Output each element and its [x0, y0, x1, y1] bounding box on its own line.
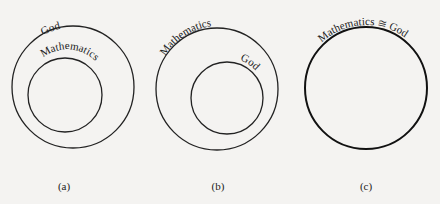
- label-mathematics: Mathematics: [38, 39, 102, 62]
- caption-a: (a): [58, 180, 71, 193]
- venn-diagram: God Mathematics (a) Mathematics God (b) …: [0, 0, 440, 204]
- panel-c: Mathematics ≅ God (c): [305, 15, 427, 193]
- circle-god-inner: [191, 62, 263, 134]
- caption-c: (c): [360, 180, 373, 193]
- panel-b: Mathematics God (b): [156, 16, 278, 193]
- circle-mathematics-inner: [28, 58, 102, 132]
- label-god: God: [239, 51, 263, 72]
- circle-mathematics-equals-god: [305, 27, 427, 149]
- label-mathematics: Mathematics: [157, 16, 212, 57]
- panel-a: God Mathematics (a): [12, 19, 134, 193]
- caption-b: (b): [212, 180, 225, 193]
